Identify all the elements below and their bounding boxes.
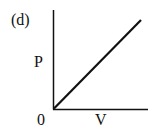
plot-area xyxy=(0,0,152,131)
data-line xyxy=(54,20,141,109)
